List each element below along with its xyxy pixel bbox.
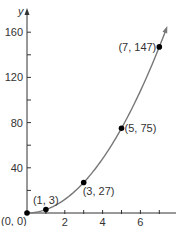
data-point-label: (5, 75): [125, 122, 157, 134]
axes: [25, 8, 177, 213]
y-axis-label: y: [17, 5, 25, 17]
data-point: [119, 125, 125, 131]
y-tick-label: 80: [11, 117, 23, 129]
y-axis-arrow-icon: [25, 8, 30, 15]
data-point: [81, 180, 87, 186]
data-point: [157, 44, 163, 50]
y-tick-label: 120: [5, 71, 23, 83]
data-point: [43, 207, 49, 213]
points: (0, 0)(1, 3)(3, 27)(5, 75)(7, 147): [1, 41, 162, 226]
y-tick-label: 40: [11, 162, 23, 174]
x-tick-label: 4: [100, 216, 106, 226]
x-tick-label: 2: [62, 216, 68, 226]
data-point-label: (0, 0): [1, 215, 27, 226]
data-point-label: (3, 27): [83, 185, 115, 197]
data-point-label: (1, 3): [33, 194, 59, 206]
x-tick-label: 6: [137, 216, 143, 226]
data-point-label: (7, 147): [118, 41, 156, 53]
curve-arrow-icon: [163, 26, 168, 33]
chart: 2464080120160 (0, 0)(1, 3)(3, 27)(5, 75)…: [0, 0, 176, 226]
y-tick-label: 160: [5, 26, 23, 38]
